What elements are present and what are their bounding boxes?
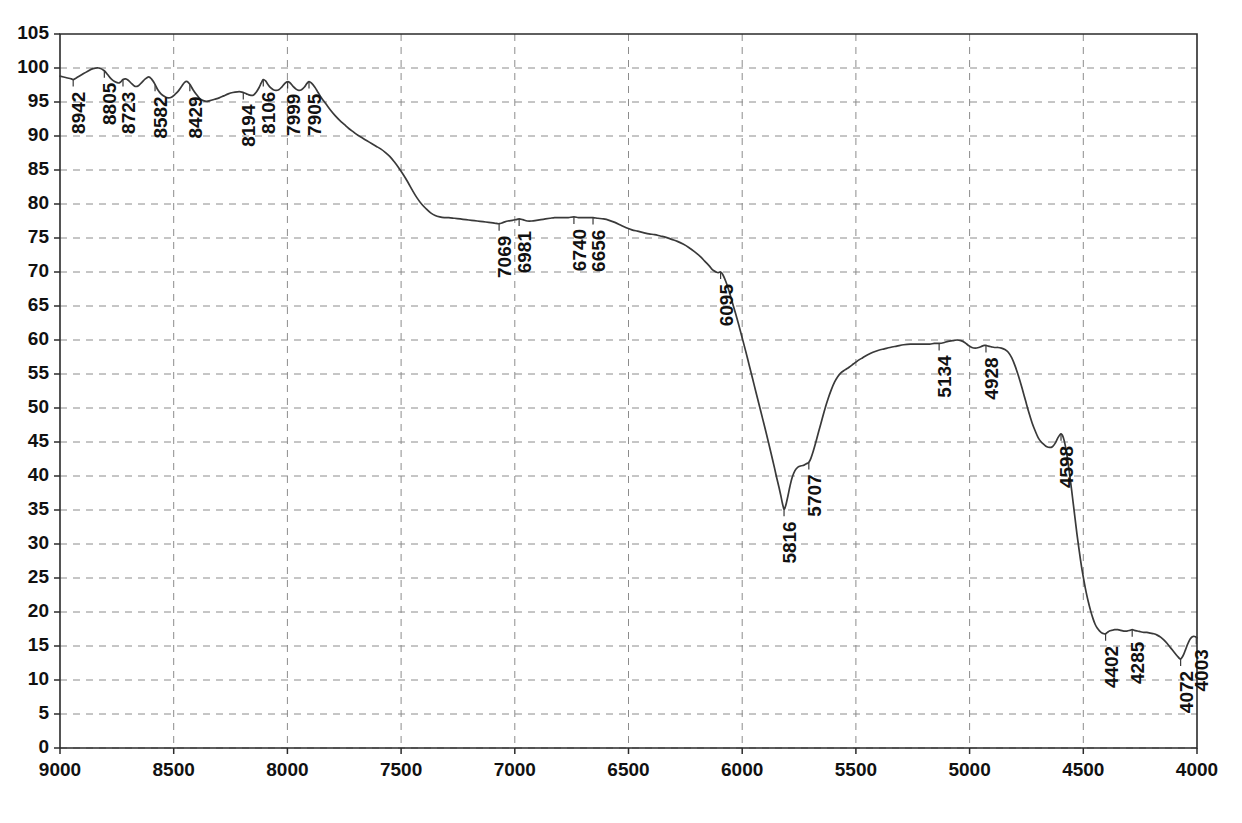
peak-label: 5816 — [779, 521, 800, 563]
y-tick-label: 40 — [28, 464, 49, 485]
peak-label: 4598 — [1056, 446, 1077, 488]
peak-label: 8106 — [258, 92, 279, 134]
x-tick-label: 7000 — [494, 759, 536, 780]
y-tick-label: 45 — [28, 430, 50, 451]
y-tick-label: 50 — [28, 396, 49, 417]
y-tick-label: 35 — [28, 498, 50, 519]
y-tick-label: 15 — [28, 634, 50, 655]
peak-label-layer: 8942880587238582842981948106799979057069… — [68, 71, 1212, 713]
x-tick-label: 6000 — [721, 759, 763, 780]
y-tick-label: 105 — [17, 22, 49, 43]
y-tick-label: 90 — [28, 124, 49, 145]
peak-label: 6981 — [514, 231, 535, 274]
y-tick-label: 30 — [28, 532, 49, 553]
peak-label: 6740 — [569, 229, 590, 271]
peak-label: 4928 — [981, 357, 1002, 399]
y-tick-label: 65 — [28, 294, 50, 315]
peak-label: 8582 — [150, 96, 171, 138]
x-tick-label: 8000 — [266, 759, 308, 780]
x-tick-label: 6500 — [607, 759, 649, 780]
peak-label: 7905 — [304, 93, 325, 136]
peak-label: 8429 — [185, 96, 206, 138]
y-tick-label: 5 — [38, 702, 49, 723]
x-tick-label: 8500 — [153, 759, 195, 780]
y-axis-tick-labels: 0510152025303540455055606570758085909510… — [17, 22, 49, 757]
y-tick-label: 10 — [28, 668, 49, 689]
peak-label: 8723 — [118, 92, 139, 134]
peak-label: 7069 — [494, 236, 515, 278]
peak-label: 5134 — [934, 355, 955, 398]
y-tick-label: 95 — [28, 90, 50, 111]
y-tick-label: 80 — [28, 192, 49, 213]
y-tick-label: 70 — [28, 260, 49, 281]
spectrum-chart: 0510152025303540455055606570758085909510… — [0, 0, 1242, 823]
y-tick-label: 75 — [28, 226, 50, 247]
x-tick-label: 7500 — [380, 759, 422, 780]
peak-label: 6095 — [716, 284, 737, 327]
y-tick-label: 55 — [28, 362, 50, 383]
peak-label: 7999 — [283, 94, 304, 136]
x-tick-label: 4000 — [1176, 759, 1218, 780]
peak-label: 8942 — [68, 92, 89, 134]
y-tick-label: 60 — [28, 328, 49, 349]
y-tick-label: 85 — [28, 158, 50, 179]
peak-label: 4402 — [1101, 646, 1122, 688]
y-tick-label: 0 — [38, 736, 49, 757]
peak-label: 6656 — [588, 230, 609, 272]
x-tick-label: 5000 — [948, 759, 990, 780]
spectrum-svg: 0510152025303540455055606570758085909510… — [0, 0, 1242, 823]
peak-label: 5707 — [804, 474, 825, 516]
x-tick-label: 9000 — [39, 759, 81, 780]
peak-label: 4285 — [1127, 641, 1148, 684]
y-tick-label: 100 — [17, 56, 49, 77]
x-tick-label: 5500 — [835, 759, 877, 780]
y-tick-label: 25 — [28, 566, 50, 587]
grid-layer — [60, 34, 1197, 748]
peak-label: 8194 — [238, 104, 259, 147]
x-axis-tick-labels: 9000850080007500700065006000550050004500… — [39, 759, 1218, 780]
y-tick-label: 20 — [28, 600, 49, 621]
x-tick-label: 4500 — [1062, 759, 1104, 780]
peak-label: 4003 — [1191, 649, 1212, 691]
